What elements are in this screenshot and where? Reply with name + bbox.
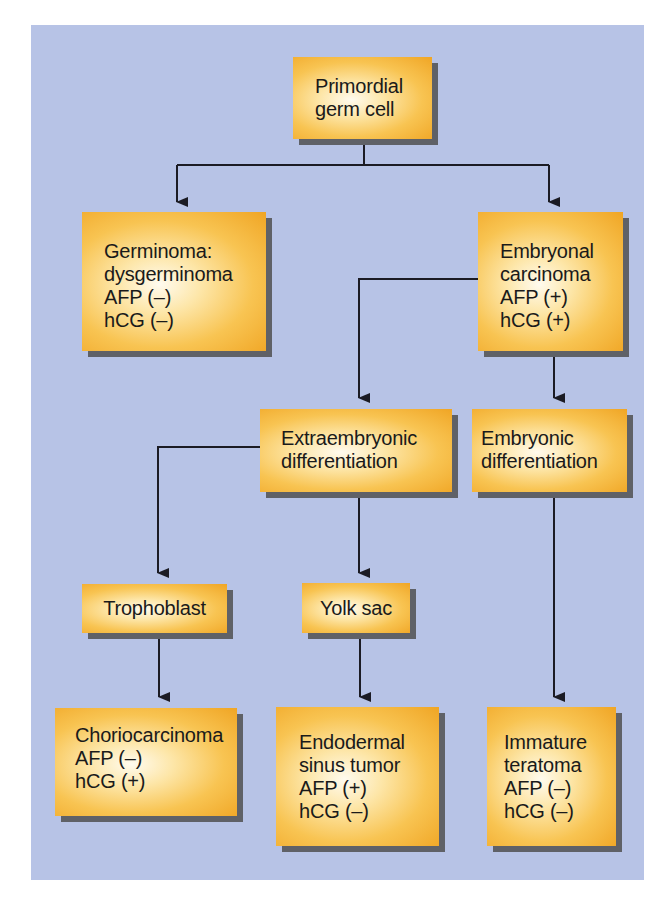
node-label-line: Endodermal [299, 731, 439, 754]
hcg-marker: hCG (+) [75, 770, 237, 793]
node-label-line: differentiation [481, 450, 627, 473]
node-label-line: Immature [504, 731, 616, 754]
node-immature-teratoma: Immature teratoma AFP (–) hCG (–) [487, 707, 616, 846]
node-label-line: teratoma [504, 754, 616, 777]
node-label-line: germ cell [315, 98, 394, 121]
node-choriocarcinoma: Choriocarcinoma AFP (–) hCG (+) [55, 708, 237, 816]
node-yolk-sac: Yolk sac [302, 583, 410, 633]
afp-marker: AFP (–) [75, 747, 237, 770]
node-germinoma-dysgerminoma: Germinoma: dysgerminoma AFP (–) hCG (–) [82, 212, 266, 351]
afp-marker: AFP (–) [104, 286, 266, 309]
node-embryonic-differentiation: Embryonic differentiation [472, 409, 627, 492]
afp-marker: AFP (+) [500, 286, 623, 309]
node-extraembryonic-differentiation: Extraembryonic differentiation [260, 409, 452, 492]
node-label-line: differentiation [281, 450, 452, 473]
node-trophoblast: Trophoblast [82, 584, 227, 633]
node-label-line: sinus tumor [299, 754, 439, 777]
node-primordial-germ-cell: Primordial germ cell [293, 57, 432, 139]
afp-marker: AFP (+) [299, 777, 439, 800]
node-label-line: dysgerminoma [104, 263, 266, 286]
hcg-marker: hCG (–) [104, 309, 266, 332]
hcg-marker: hCG (+) [500, 309, 623, 332]
node-label-line: Trophoblast [103, 597, 206, 620]
node-label-line: Germinoma: [104, 240, 266, 263]
node-label-line: Primordial [315, 75, 403, 98]
node-label-line: Choriocarcinoma [75, 724, 237, 747]
node-label-line: Embryonic [481, 427, 627, 450]
hcg-marker: hCG (–) [299, 800, 439, 823]
node-embryonal-carcinoma: Embryonal carcinoma AFP (+) hCG (+) [478, 212, 623, 351]
node-label-line: Extraembryonic [281, 427, 452, 450]
node-label-line: Yolk sac [320, 597, 392, 620]
node-label-line: Embryonal [500, 240, 623, 263]
node-label-line: carcinoma [500, 263, 623, 286]
hcg-marker: hCG (–) [504, 800, 616, 823]
afp-marker: AFP (–) [504, 777, 616, 800]
node-endodermal-sinus-tumor: Endodermal sinus tumor AFP (+) hCG (–) [276, 707, 439, 846]
